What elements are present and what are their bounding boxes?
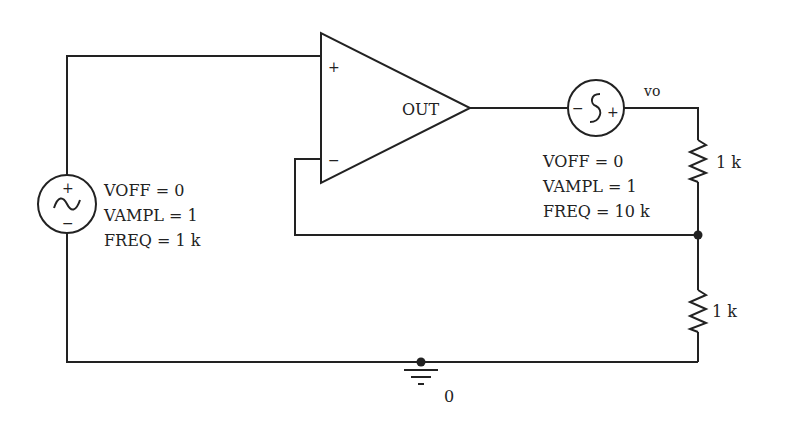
sine-wave-icon [54,198,80,209]
series-source-plus-label: + [607,104,619,120]
series-source-param-vampl: VAMPL = 1 [542,177,637,196]
wire-feedback [295,159,698,235]
circuit-diagram: + − OUT + − VOFF = 0 VAMPL = 1 FREQ = 1 … [0,0,785,427]
series-source-minus-label: − [572,100,584,116]
opamp-triangle [321,33,470,183]
junction-ground-node [417,358,426,367]
sine-wave-vertical-icon [590,94,600,122]
wire-ground-rail [67,233,698,362]
resistor-top-value: 1 k [716,153,741,172]
input-voltage-source: + − VOFF = 0 VAMPL = 1 FREQ = 1 k [38,175,201,250]
input-source-param-vampl: VAMPL = 1 [103,206,198,225]
opamp: + − OUT [321,33,470,183]
opamp-out-label: OUT [402,100,440,119]
resistor-bottom-value: 1 k [712,302,737,321]
input-source-plus-label: + [62,180,74,196]
resistor-bottom-zigzag [690,290,706,332]
junction-divider-node [694,231,703,240]
input-source-param-freq: FREQ = 1 k [104,231,201,250]
ground-icon [404,370,438,384]
series-source-param-freq: FREQ = 10 k [543,202,650,221]
wire-noninverting-input [67,56,321,175]
resistor-bottom: 1 k [690,290,737,332]
resistor-top-zigzag [690,140,706,182]
resistor-top: 1 k [690,140,741,182]
output-node-label: vo [643,83,660,99]
opamp-minus-label: − [328,152,340,168]
input-source-param-voff: VOFF = 0 [103,181,184,200]
series-voltage-source: − + VOFF = 0 VAMPL = 1 FREQ = 10 k [542,80,650,221]
input-source-minus-label: − [62,215,74,231]
wire-vo-node [624,108,698,140]
ground-node-label: 0 [444,387,454,406]
series-source-param-voff: VOFF = 0 [542,152,623,171]
opamp-plus-label: + [328,59,340,75]
